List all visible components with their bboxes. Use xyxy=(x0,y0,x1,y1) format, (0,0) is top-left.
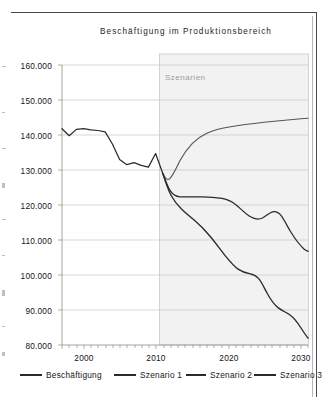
y-axis-tick-label: 160.000 xyxy=(0,61,52,71)
series-line-beschaeftigung xyxy=(62,129,163,174)
scenario-shading xyxy=(160,54,309,345)
legend-line-swatch xyxy=(254,374,276,376)
legend-item-szenario-1: Szenario 1 xyxy=(114,366,182,384)
y-axis-tick-label: 120.000 xyxy=(0,201,52,211)
legend-line-swatch xyxy=(114,374,136,376)
legend-label: Szenario 3 xyxy=(280,370,322,380)
x-axis-tick-label: 2000 xyxy=(60,353,108,363)
y-axis-tick-marks xyxy=(58,65,62,345)
x-axis-tick-label: 2010 xyxy=(132,353,180,363)
legend-line-swatch xyxy=(186,374,206,376)
y-axis-tick-label: 140.000 xyxy=(0,131,52,141)
legend-label: Szenario 2 xyxy=(210,370,252,380)
figure-container: Beschäftigung im Produktionsbereich xyxy=(0,0,329,403)
x-axis-tick-label: 2020 xyxy=(205,353,253,363)
legend-item-szenario-2: Szenario 2 xyxy=(186,366,252,384)
y-axis-tick-label: 100.000 xyxy=(0,271,52,281)
chart-legend: Beschäftigung Szenario 1 Szenario 2 Szen… xyxy=(11,366,311,384)
y-axis-tick-label: 150.000 xyxy=(0,96,52,106)
y-axis-tick-label: 130.000 xyxy=(0,166,52,176)
y-axis-tick-label: 80.000 xyxy=(0,341,52,351)
legend-item-beschaeftigung: Beschäftigung xyxy=(20,366,102,384)
y-axis-tick-label: 90.000 xyxy=(0,306,52,316)
legend-item-szenario-3: Szenario 3 xyxy=(254,366,322,384)
legend-line-swatch xyxy=(20,374,42,376)
scenario-region-label: Szenarien xyxy=(165,73,206,82)
legend-label: Szenario 1 xyxy=(140,370,182,380)
legend-label: Beschäftigung xyxy=(46,370,102,380)
x-axis-tick-label: 2030 xyxy=(277,353,325,363)
x-axis-tick-marks xyxy=(62,345,308,349)
y-axis-tick-label: 110.000 xyxy=(0,236,52,246)
